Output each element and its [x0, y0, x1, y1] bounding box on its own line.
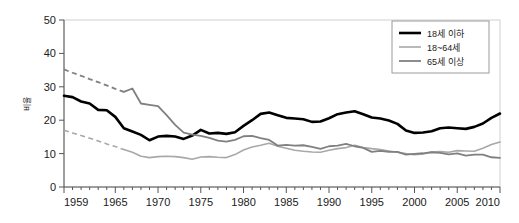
x-axis-tick-label: 1990: [317, 196, 341, 208]
x-axis-tick-label: 2005: [445, 196, 469, 208]
x-axis-tick-label: 1980: [231, 196, 255, 208]
y-axis-tick-label: 30: [44, 81, 56, 93]
y-axis-tick-label: 10: [44, 148, 56, 160]
y-axis-title-text: 비율: [23, 97, 32, 111]
y-axis-tick-label: 50: [44, 14, 56, 26]
x-axis-tick-label: 1985: [274, 196, 298, 208]
x-axis-tick-label: 2010: [476, 196, 500, 208]
x-axis-tick-label: 1970: [146, 196, 170, 208]
legend-label-2[interactable]: 65세 이상: [427, 57, 464, 67]
chart-figure: 01020304050 1959196519701975198019851990…: [0, 0, 519, 223]
y-axis-tick-label: 40: [44, 47, 56, 59]
x-axis-tick-label: 1959: [64, 196, 88, 208]
x-axis-tick-label: 1995: [360, 196, 384, 208]
y-axis-tick-label: 20: [44, 114, 56, 126]
legend-label-0[interactable]: 18세 이하: [427, 29, 465, 39]
y-axis-title: 비율: [23, 97, 32, 111]
x-axis-tick-label: 2000: [402, 196, 426, 208]
x-axis-tick-label: 1965: [103, 196, 127, 208]
y-axis-tick-label: 0: [50, 181, 56, 193]
x-axis-tick-label: 1975: [189, 196, 213, 208]
line-chart: 01020304050 1959196519701975198019851990…: [0, 0, 519, 223]
chart-legend[interactable]: 18세 이하18~64세65세 이상: [392, 21, 489, 73]
legend-label-1[interactable]: 18~64세: [427, 43, 460, 53]
